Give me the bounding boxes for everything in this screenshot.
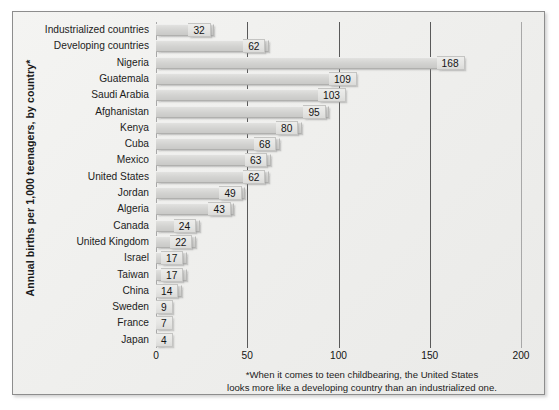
chart-row: Mexico63 [156, 153, 521, 167]
bar-value-label: 168 [437, 56, 465, 70]
bar [156, 57, 463, 69]
category-label: Guatemala [99, 72, 149, 86]
category-label: Israel [124, 251, 149, 265]
x-tick-label-0: 0 [153, 350, 159, 361]
category-label: France [117, 316, 149, 330]
category-label: Algeria [117, 202, 149, 216]
chart-row: Sweden9 [156, 300, 521, 314]
gridline-0 [156, 22, 157, 348]
category-label: Mexico [117, 153, 149, 167]
category-label: Sweden [112, 300, 149, 314]
y-axis-title-container: Annual births per 1,000 teenagers, by co… [13, 12, 39, 352]
bar-value-label: 49 [219, 186, 241, 200]
bar-value-label: 68 [254, 137, 276, 151]
x-axis-ticks: 050100150200 [156, 350, 521, 366]
x-tick-label-50: 50 [242, 350, 253, 361]
footnote-line-2: looks more like a developing country tha… [197, 382, 527, 395]
bar-value-label: 4 [156, 333, 173, 347]
gridline-50 [247, 22, 248, 348]
chart-row: United States62 [156, 170, 521, 184]
bar-value-label: 14 [156, 284, 178, 298]
bar-value-label: 62 [243, 39, 265, 53]
chart-row: China14 [156, 284, 521, 298]
bar-value-label: 32 [188, 23, 210, 37]
category-label: Kenya [120, 121, 149, 135]
category-label: Saudi Arabia [91, 88, 149, 102]
chart-row: Japan4 [156, 333, 521, 347]
chart-row: Taiwan17 [156, 268, 521, 282]
bar-value-label: 22 [170, 235, 192, 249]
category-label: Developing countries [54, 39, 149, 53]
bar-value-label: 109 [329, 72, 357, 86]
chart-row: Industrialized countries32 [156, 23, 521, 37]
bar-value-label: 103 [318, 88, 346, 102]
bar-value-label: 63 [245, 153, 267, 167]
bar-value-label: 43 [208, 202, 230, 216]
x-tick-label-200: 200 [513, 350, 530, 361]
bar-value-label: 9 [156, 300, 173, 314]
category-label: United Kingdom [77, 235, 150, 249]
plot-area: Industrialized countries32Developing cou… [156, 22, 521, 348]
chart-row: Israel17 [156, 251, 521, 265]
bar-value-label: 62 [243, 170, 265, 184]
category-label: Nigeria [117, 56, 149, 70]
chart-row: Nigeria168 [156, 56, 521, 70]
category-label: Cuba [125, 137, 149, 151]
chart-row: Developing countries62 [156, 39, 521, 53]
gridline-150 [430, 22, 431, 348]
category-label: Japan [121, 333, 149, 347]
y-axis-title: Annual births per 1,000 teenagers, by co… [24, 18, 36, 338]
footnote-line-1: *When it comes to teen childbearing, the… [197, 369, 527, 382]
category-label: China [122, 284, 149, 298]
bar [156, 89, 344, 101]
bar-value-label: 80 [276, 121, 298, 135]
gridline-200 [521, 22, 522, 348]
category-label: Canada [113, 219, 149, 233]
chart-row: Saudi Arabia103 [156, 88, 521, 102]
chart-figure: Annual births per 1,000 teenagers, by co… [12, 11, 545, 395]
gridline-100 [339, 22, 340, 348]
bar-value-label: 95 [303, 105, 325, 119]
chart-row: Guatemala109 [156, 72, 521, 86]
bar-value-label: 7 [156, 316, 173, 330]
bar-value-label: 17 [161, 251, 183, 265]
chart-row: Kenya80 [156, 121, 521, 135]
chart-row: Canada24 [156, 219, 521, 233]
bar-value-label: 17 [161, 268, 183, 282]
x-tick-label-100: 100 [330, 350, 347, 361]
chart-footnote: *When it comes to teen childbearing, the… [197, 369, 527, 394]
category-label: Afghanistan [95, 105, 149, 119]
chart-row: Cuba68 [156, 137, 521, 151]
category-label: Industrialized countries [45, 23, 149, 37]
x-tick-label-150: 150 [421, 350, 438, 361]
chart-row: United Kingdom22 [156, 235, 521, 249]
chart-row: Jordan49 [156, 186, 521, 200]
bar-value-label: 24 [174, 219, 196, 233]
category-label: Jordan [118, 186, 149, 200]
chart-row: Algeria43 [156, 202, 521, 216]
chart-row: France7 [156, 316, 521, 330]
category-label: Taiwan [117, 268, 149, 282]
category-label: United States [88, 170, 149, 184]
chart-row: Afghanistan95 [156, 105, 521, 119]
bar [156, 73, 355, 85]
